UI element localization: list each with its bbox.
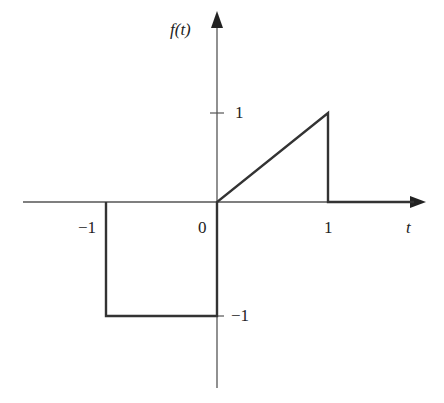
function-curve — [106, 113, 414, 316]
x-tick-label-0: 0 — [198, 219, 207, 236]
plot-svg — [0, 0, 444, 403]
chart-canvas: f(t) t −1 0 1 1 −1 — [0, 0, 444, 403]
x-tick-label-1: 1 — [324, 219, 333, 236]
y-axis-label: f(t) — [170, 21, 191, 38]
x-tick-label-neg1: −1 — [78, 219, 96, 236]
y-tick-label-1: 1 — [235, 104, 244, 121]
y-axis-arrow-icon — [211, 11, 223, 28]
y-tick-label-neg1: −1 — [231, 307, 249, 324]
x-axis-label: t — [406, 219, 411, 236]
